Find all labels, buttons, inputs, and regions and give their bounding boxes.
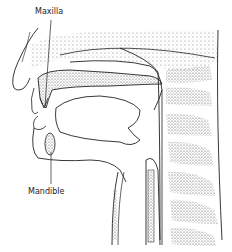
airway [112,90,162,245]
neck-outline [218,30,223,240]
label-maxilla: Maxilla [35,8,63,16]
mandible [33,128,126,182]
diagram-drawing [0,0,232,252]
cervical-vertebrae [166,66,218,246]
maxilla [31,70,162,114]
skull-bone [30,30,218,71]
tongue [56,96,141,145]
anatomy-diagram: Maxilla Mandible [0,0,232,252]
label-mandible: Mandible [28,188,64,196]
